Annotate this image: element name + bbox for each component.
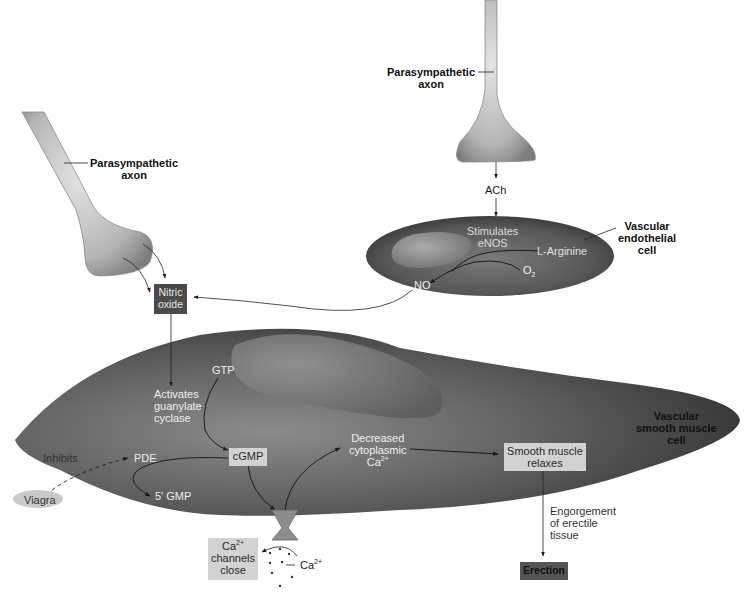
right-axon-label: Parasympathetic axon xyxy=(387,66,475,90)
ca-outside-label: Ca2+ xyxy=(300,559,322,571)
nitric-oxide-box: Nitric oxide xyxy=(154,284,187,314)
five-gmp-label: 5′ GMP xyxy=(155,490,191,502)
stimulates-enos-label: Stimulates eNOS xyxy=(467,225,518,249)
l-arginine-label: L-Arginine xyxy=(537,245,587,257)
calcium-channel-icon xyxy=(272,510,298,540)
pde-label: PDE xyxy=(134,452,157,464)
smooth-muscle-cell xyxy=(15,329,740,516)
o2-label: O2 xyxy=(523,264,535,276)
ach-label: ACh xyxy=(485,184,506,196)
smooth-muscle-relaxes-box: Smooth muscle relaxes xyxy=(504,443,586,471)
gtp-label: GTP xyxy=(212,364,235,376)
cgmp-box: cGMP xyxy=(229,448,267,466)
decreased-ca-label: Decreased cytoplasmic Ca2+ xyxy=(349,432,406,468)
engorgement-label: Engorgement of erectile tissue xyxy=(550,505,616,541)
left-axon xyxy=(22,112,152,276)
activates-guanylate-cyclase-label: Activates guanylate cyclase xyxy=(154,388,202,424)
left-axon-label: Parasympathetic axon xyxy=(90,157,178,181)
calcium-ions xyxy=(269,548,293,587)
no-label: NO xyxy=(414,279,431,291)
diagram-canvas: Parasympathetic axon Parasympathetic axo… xyxy=(0,0,755,593)
erection-box: Erection xyxy=(520,562,568,580)
ca-channels-close-box: Ca2+ channels close xyxy=(208,538,258,580)
endothelial-cell-label: Vascular endothelial cell xyxy=(618,220,676,256)
inhibits-label: Inhibits xyxy=(43,452,78,464)
viagra-label: Viagra xyxy=(24,494,56,506)
smooth-muscle-cell-label: Vascular smooth muscle cell xyxy=(636,410,717,446)
